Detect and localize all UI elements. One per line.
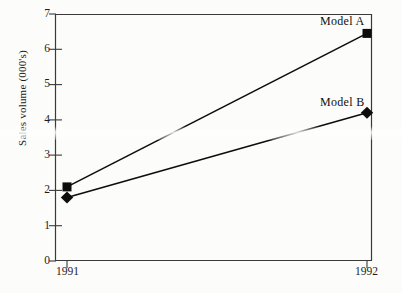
axis-frame	[56, 14, 373, 261]
plot-area	[0, 0, 402, 293]
data-point-model-a-1992	[363, 29, 372, 38]
x-tick-marks	[67, 261, 367, 268]
series-line-model-a	[67, 33, 367, 187]
series-line-model-b	[67, 113, 367, 198]
data-point-model-b-1991	[61, 192, 73, 204]
chart-figure: Sales volume (000's) 7 6 5 4 3 2 1 0 199…	[0, 0, 402, 293]
data-point-model-a-1991	[63, 182, 72, 191]
